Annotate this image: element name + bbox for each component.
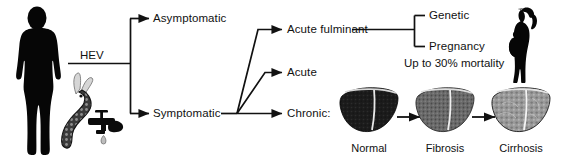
liver-fibrosis-image [414,86,476,138]
pregnant-woman-silhouette-icon [502,3,550,83]
liver-label-cirrhosis: Cirrhosis [490,143,552,154]
risk-factor-genetic: Genetic [429,10,469,22]
node-acute-fulminant: Acute fulminant [287,24,368,36]
node-asymptomatic: Asymptomatic [153,13,226,25]
hev-label: HEV [80,50,104,62]
water-drop-icon [101,136,106,145]
main-split-trunk [130,19,149,114]
liver-normal-image [338,86,400,138]
risk-factor-pregnancy: Pregnancy [429,41,485,53]
liver-label-fibrosis: Fibrosis [414,143,476,154]
hev-outcomes-diagram: HEV Asymptomatic Symptomatic Acute fulmi… [0,0,577,161]
water-tap-icon [84,108,124,150]
node-acute: Acute [287,67,317,79]
node-chronic: Chronic: [287,108,331,120]
liver-cirrhosis-image [490,86,552,138]
node-symptomatic: Symptomatic [153,108,221,120]
mortality-note: Up to 30% mortality [404,58,504,70]
liver-label-normal: Normal [338,143,400,154]
symptomatic-fanout [221,30,282,114]
